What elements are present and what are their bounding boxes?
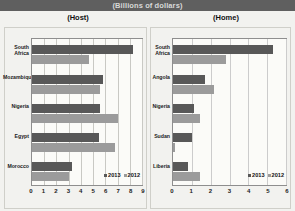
category-label: Sudan — [149, 134, 170, 140]
x-tick-label: 7 — [116, 188, 119, 194]
bar-group — [32, 75, 142, 91]
bar-group — [32, 133, 142, 149]
bar-2012 — [32, 114, 118, 123]
x-axis-home: 0123456 — [172, 188, 287, 200]
category-label: Morocco — [3, 164, 29, 170]
x-tick-label: 2 — [54, 188, 57, 194]
legend-label-2012: 2012 — [128, 172, 140, 178]
bar-group — [32, 45, 142, 61]
x-tick-label: 1 — [189, 188, 192, 194]
bar-2012 — [32, 55, 89, 64]
bar-2013 — [32, 75, 103, 84]
chart-host: South AfricaMozambiqueNigeriaEgyptMorocc… — [4, 27, 147, 209]
legend-host: 20132012 — [104, 172, 140, 178]
gridline — [286, 39, 287, 185]
bar-2013 — [173, 162, 188, 171]
x-tick-label: 2 — [209, 188, 212, 194]
bar-2013 — [32, 162, 72, 171]
bar-rows-home — [173, 39, 286, 185]
panel-title-host: (Host) — [48, 13, 108, 22]
legend-label-2013: 2013 — [252, 172, 264, 178]
legend-swatch-2013 — [104, 174, 107, 177]
bar-2013 — [32, 104, 100, 113]
bar-group — [173, 45, 286, 61]
bar-2012 — [32, 143, 115, 152]
bar-2012 — [173, 85, 214, 94]
category-label: Mozambique — [3, 75, 29, 81]
bar-2012 — [32, 172, 69, 181]
x-tick-label: 8 — [129, 188, 132, 194]
panel-titles: (Host) (Home) — [0, 11, 295, 24]
category-labels-host: South AfricaMozambiqueNigeriaEgyptMorocc… — [5, 38, 31, 186]
x-axis-host: 0123456789 — [31, 188, 143, 200]
category-labels-home: South AfricaAngolaNigeriaSudanLiberia — [151, 38, 172, 186]
bar-2013 — [32, 133, 99, 142]
bar-2012 — [173, 172, 200, 181]
panel-title-home: (Home) — [196, 13, 256, 22]
x-tick-label: 5 — [92, 188, 95, 194]
legend-swatch-2013 — [248, 174, 251, 177]
x-tick-label: 6 — [285, 188, 288, 194]
x-tick-label: 3 — [228, 188, 231, 194]
bar-2013 — [32, 45, 133, 54]
legend-swatch-2012 — [124, 174, 127, 177]
x-tick-label: 4 — [247, 188, 250, 194]
bar-rows-host — [32, 39, 142, 185]
bar-2012 — [173, 114, 200, 123]
x-tick-label: 1 — [42, 188, 45, 194]
legend-home: 20132012 — [248, 172, 284, 178]
bar-2013 — [173, 45, 273, 54]
x-tick-label: 0 — [170, 188, 173, 194]
plot-area-host — [31, 38, 143, 186]
x-tick-label: 9 — [141, 188, 144, 194]
bar-2013 — [173, 133, 192, 142]
legend-label-2012: 2012 — [272, 172, 284, 178]
category-label: Egypt — [3, 134, 29, 140]
x-tick-label: 0 — [29, 188, 32, 194]
chart-home: South AfricaAngolaNigeriaSudanLiberia 01… — [150, 27, 291, 209]
bar-2012 — [173, 55, 226, 64]
x-tick-label: 6 — [104, 188, 107, 194]
gridline — [142, 39, 143, 185]
bar-group — [173, 75, 286, 91]
category-label: Angola — [149, 75, 170, 81]
category-label: South Africa — [149, 45, 170, 56]
category-label: South Africa — [3, 45, 29, 56]
x-tick-label: 5 — [266, 188, 269, 194]
bar-2012 — [32, 85, 100, 94]
plot-area-home — [172, 38, 287, 186]
category-label: Liberia — [149, 164, 170, 170]
bar-group — [173, 133, 286, 149]
category-label: Nigeria — [3, 104, 29, 110]
legend-label-2013: 2013 — [108, 172, 120, 178]
bar-group — [32, 104, 142, 120]
bar-2012 — [173, 143, 175, 152]
bar-group — [173, 104, 286, 120]
bar-2013 — [173, 75, 205, 84]
legend-swatch-2012 — [268, 174, 271, 177]
x-tick-label: 3 — [67, 188, 70, 194]
category-label: Nigeria — [149, 104, 170, 110]
chart-units-header: (Billions of dollars) — [0, 0, 295, 11]
bar-2013 — [173, 104, 194, 113]
x-tick-label: 4 — [79, 188, 82, 194]
